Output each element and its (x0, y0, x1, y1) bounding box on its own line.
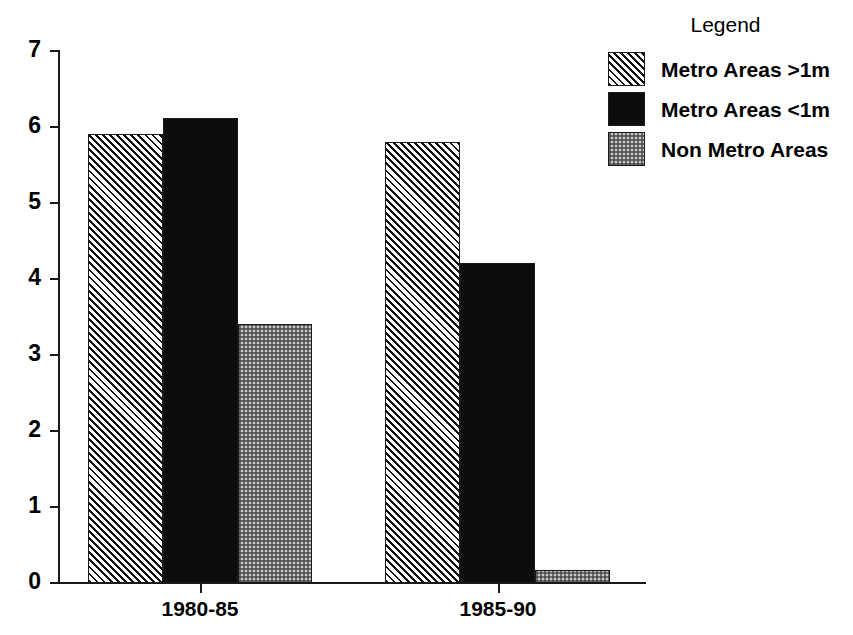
y-tick-label-4: 4 (15, 266, 41, 289)
y-tick-label-3: 3 (15, 342, 41, 365)
y-tick-label-1: 1 (15, 494, 41, 517)
bar-1980-85-metro-lt-1m (163, 118, 238, 583)
bar-1985-90-metro-gt-1m (385, 142, 460, 583)
bar-1980-85-non-metro (238, 324, 312, 583)
y-tick-label-0: 0 (15, 570, 41, 593)
legend: Legend Metro Areas >1m Metro Areas <1m N… (600, 14, 850, 169)
legend-item-non-metro: Non Metro Areas (600, 129, 850, 169)
legend-label-non-metro: Non Metro Areas (661, 139, 828, 160)
x-tick-label-1985-90: 1985-90 (418, 597, 578, 621)
legend-item-metro-gt-1m: Metro Areas >1m (600, 49, 850, 89)
x-tick-1985-90 (498, 583, 500, 593)
legend-title: Legend (604, 14, 847, 49)
hatch-swatch (608, 52, 645, 86)
bar-1985-90-metro-lt-1m (460, 263, 535, 583)
legend-label-metro-lt-1m: Metro Areas <1m (661, 99, 830, 120)
x-tick-1980-85 (200, 583, 202, 593)
y-tick-label-2: 2 (15, 418, 41, 441)
legend-item-metro-lt-1m: Metro Areas <1m (600, 89, 850, 129)
stipple-swatch (608, 132, 645, 166)
legend-label-metro-gt-1m: Metro Areas >1m (661, 59, 830, 80)
y-axis-line (58, 50, 60, 583)
solid-swatch (608, 92, 645, 126)
bar-chart: 7 6 5 4 3 2 1 0 1980-85 1985-90 (0, 0, 853, 635)
y-tick-label-7: 7 (15, 38, 41, 61)
bar-1980-85-metro-gt-1m (88, 134, 163, 583)
bar-1985-90-non-metro (535, 570, 610, 583)
y-tick-label-6: 6 (15, 114, 41, 137)
x-tick-label-1980-85: 1980-85 (120, 597, 280, 621)
y-tick-label-5: 5 (15, 190, 41, 213)
